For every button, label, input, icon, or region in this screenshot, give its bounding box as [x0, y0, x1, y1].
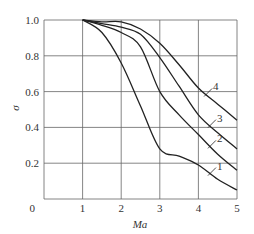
y-axis-label: σ	[9, 105, 21, 111]
curve-label-4: 4	[213, 80, 219, 92]
y-tick-label: 0.6	[25, 86, 39, 98]
x-tick-label: 5	[234, 202, 240, 214]
x-tick-label: 3	[157, 202, 163, 214]
y-tick-label: 1.0	[25, 14, 39, 26]
y-tick-label: 0.2	[25, 157, 39, 169]
y-tick-label: 0	[30, 202, 36, 214]
curve-label-leader	[208, 120, 216, 128]
x-tick-label: 1	[80, 202, 86, 214]
y-tick-labels: 00.20.40.60.81.0	[25, 14, 39, 214]
y-tick-label: 0.8	[25, 50, 39, 62]
x-axis-label: Ma	[132, 218, 148, 230]
curve-labels: 1234	[204, 80, 223, 175]
x-tick-label: 2	[118, 202, 124, 214]
y-tick-label: 0.4	[25, 121, 39, 133]
curve-label-leader	[208, 140, 216, 148]
curve-label-3: 3	[217, 112, 223, 124]
curve-label-leader	[204, 88, 212, 96]
x-tick-labels: 12345	[80, 202, 240, 214]
curve-label-1: 1	[217, 160, 223, 172]
chart: 12345 00.20.40.60.81.0 1234 Ma σ	[0, 0, 254, 234]
x-tick-label: 4	[196, 202, 202, 214]
curve-label-2: 2	[217, 132, 223, 144]
